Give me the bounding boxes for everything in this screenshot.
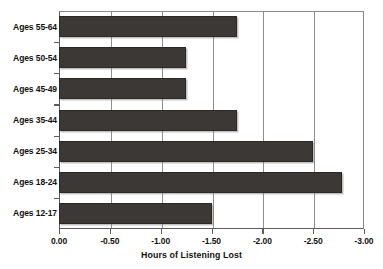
x-axis-tick-label: -2.50 <box>304 236 323 246</box>
y-axis-tick-label: Ages 12-17 <box>13 208 57 218</box>
y-axis-tick-label: Ages 45-49 <box>13 84 57 94</box>
bar-chart: Ages 55-64Ages 50-54Ages 45-49Ages 35-44… <box>0 0 383 269</box>
x-axis-tick <box>110 229 111 234</box>
x-axis-tick-label: 0.00 <box>51 236 67 246</box>
y-axis-tick-label: Ages 55-64 <box>13 22 57 32</box>
x-axis-tick <box>262 229 263 234</box>
y-axis-tick <box>54 42 59 43</box>
bar <box>59 16 237 37</box>
x-axis-tick-label: -1.50 <box>202 236 221 246</box>
bar <box>59 172 342 193</box>
y-axis-tick-label: Ages 50-54 <box>13 53 57 63</box>
x-axis-tick-label: -0.50 <box>100 236 119 246</box>
x-axis-tick-label: -2.00 <box>253 236 272 246</box>
x-axis-tick <box>313 229 314 234</box>
x-axis-tick <box>212 229 213 234</box>
bar <box>59 110 237 131</box>
bar <box>59 141 313 162</box>
x-axis-tick-label: -3.00 <box>355 236 374 246</box>
bar <box>59 78 186 99</box>
x-axis-tick <box>364 229 365 234</box>
y-axis-tick <box>54 73 59 74</box>
y-axis-tick <box>54 104 59 105</box>
bar-row <box>59 110 364 131</box>
y-axis-tick <box>54 136 59 137</box>
y-axis-tick-label: Ages 18-24 <box>13 177 57 187</box>
x-axis-title: Hours of Listening Lost <box>0 250 383 260</box>
y-axis-tick <box>54 167 59 168</box>
bar-row <box>59 78 364 99</box>
x-axis-tick <box>59 229 60 234</box>
bar-row <box>59 47 364 68</box>
y-axis-tick-label: Ages 35-44 <box>13 115 57 125</box>
bar-row <box>59 141 364 162</box>
y-axis-tick <box>54 198 59 199</box>
bar-row <box>59 16 364 37</box>
x-axis-tick <box>161 229 162 234</box>
x-axis-tick-label: -1.00 <box>151 236 170 246</box>
bar-row <box>59 203 364 224</box>
bar-row <box>59 172 364 193</box>
bar <box>59 47 186 68</box>
bar <box>59 203 212 224</box>
y-axis-tick-label: Ages 25-34 <box>13 146 57 156</box>
chart-title-clipped <box>118 0 238 3</box>
